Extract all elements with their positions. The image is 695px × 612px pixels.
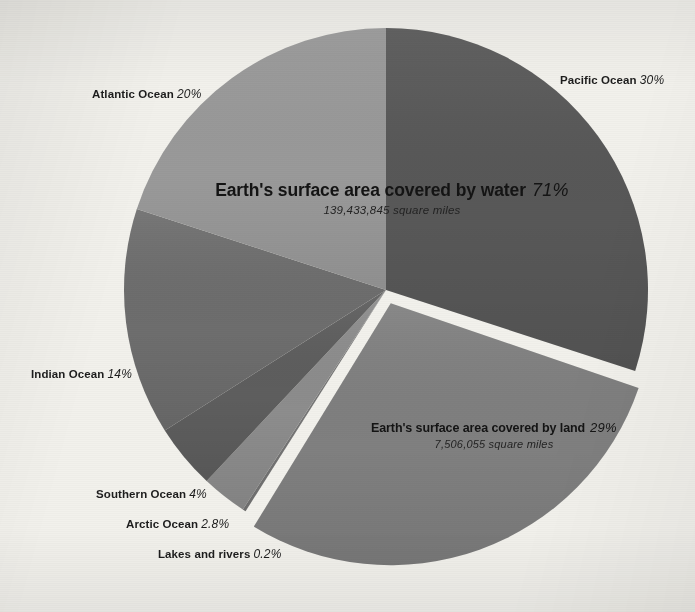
- pie-chart: Pacific Ocean30% Atlantic Ocean20% India…: [0, 0, 695, 612]
- land-headline-percent: 29%: [590, 420, 617, 435]
- slice-label-percent: 0.2%: [253, 547, 281, 561]
- slice-label-arctic-ocean: Arctic Ocean2.8%: [126, 514, 229, 532]
- slice-label-name: Pacific Ocean: [560, 74, 637, 86]
- water-headline-title: Earth's surface area covered by water: [215, 180, 526, 200]
- slice-label-name: Lakes and rivers: [158, 548, 250, 560]
- slice-label-percent: 30%: [640, 73, 665, 87]
- water-headline-area: 139,433,845 square miles: [196, 204, 588, 216]
- slice-label-southern-ocean: Southern Ocean4%: [96, 484, 207, 502]
- slice-label-name: Indian Ocean: [31, 368, 104, 380]
- land-headline-area: 7,506,055 square miles: [352, 438, 636, 450]
- slice-label-indian-ocean: Indian Ocean14%: [31, 364, 132, 382]
- slice-label-name: Southern Ocean: [96, 488, 186, 500]
- slice-label-name: Atlantic Ocean: [92, 88, 174, 100]
- slice-label-percent: 20%: [177, 87, 202, 101]
- slice-label-percent: 2.8%: [201, 517, 229, 531]
- land-headline-title: Earth's surface area covered by land: [371, 421, 585, 435]
- slice-label-atlantic-ocean: Atlantic Ocean20%: [92, 84, 202, 102]
- slice-label-percent: 4%: [189, 487, 207, 501]
- slice-label-name: Arctic Ocean: [126, 518, 198, 530]
- slice-label-lakes-and-rivers: Lakes and rivers0.2%: [158, 544, 282, 562]
- water-headline-percent: 71%: [532, 180, 569, 200]
- water-headline: Earth's surface area covered by water71%…: [196, 180, 588, 216]
- slice-label-pacific-ocean: Pacific Ocean30%: [560, 70, 664, 88]
- land-headline: Earth's surface area covered by land29% …: [352, 418, 636, 450]
- slice-label-percent: 14%: [107, 367, 132, 381]
